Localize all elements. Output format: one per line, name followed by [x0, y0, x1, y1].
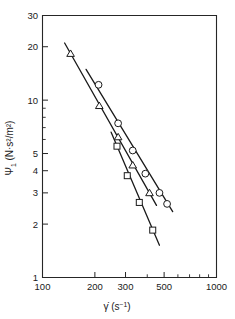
- y-tick-label: 1: [33, 272, 38, 283]
- y-axis-symbol: Ψ: [4, 167, 15, 175]
- marker-circle: [164, 200, 171, 207]
- marker-square: [124, 173, 130, 179]
- marker-circle: [129, 147, 136, 154]
- marker-circle: [115, 120, 122, 127]
- marker-circle: [142, 170, 149, 177]
- x-axis-unit-close: ): [127, 301, 130, 312]
- x-axis-unit-open: (s: [108, 301, 119, 312]
- marker-circle: [95, 81, 102, 88]
- x-axis-title: γ̇ (s−1): [103, 301, 130, 313]
- marker-triangle: [129, 162, 137, 168]
- x-tick-label: 1000: [206, 281, 227, 292]
- y-tick-label: 4: [33, 165, 38, 176]
- y-tick-label: 3: [33, 187, 38, 198]
- marker-triangle: [146, 189, 154, 195]
- marker-square: [150, 227, 156, 233]
- marker-square: [114, 143, 120, 149]
- y-tick-label: 5: [33, 148, 38, 159]
- x-axis-tick-labels: 1002003005001000: [35, 281, 228, 292]
- figure-panel: 1002003005001000 12345102030 γ̇ (s−1) Ψ1…: [0, 0, 235, 319]
- x-tick-label: 200: [87, 281, 103, 292]
- y-axis-ticks: [43, 16, 49, 278]
- x-axis-ticks: [43, 272, 217, 278]
- psi1-vs-shear-rate-chart: 1002003005001000 12345102030 γ̇ (s−1) Ψ1…: [0, 0, 235, 319]
- y-axis-title: Ψ1 (N·s²/m²): [4, 121, 17, 176]
- y-tick-label: 30: [27, 10, 38, 21]
- marker-triangle: [95, 102, 103, 108]
- marker-circle: [156, 189, 163, 196]
- y-tick-label: 20: [27, 41, 38, 52]
- svg-text:Ψ1 (N·s²/m²): Ψ1 (N·s²/m²): [4, 121, 17, 176]
- svg-text:γ̇ (s−1): γ̇ (s−1): [103, 301, 130, 313]
- y-tick-label: 10: [27, 95, 38, 106]
- y-axis-unit: (N·s²/m²): [4, 121, 15, 164]
- marker-triangle: [67, 50, 75, 56]
- marker-triangle: [114, 133, 122, 139]
- y-tick-label: 2: [33, 219, 38, 230]
- marker-square: [136, 199, 142, 205]
- x-tick-label: 300: [118, 281, 134, 292]
- fit-line-triangles: [65, 43, 157, 205]
- y-axis-tick-labels: 12345102030: [27, 10, 38, 283]
- data-markers: [67, 50, 171, 233]
- x-tick-label: 500: [156, 281, 172, 292]
